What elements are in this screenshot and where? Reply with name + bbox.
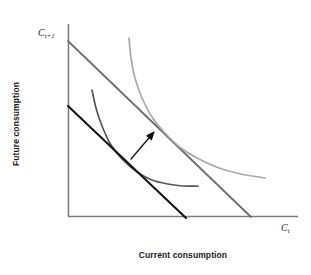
x-axis-title: Current consumption [68, 250, 298, 260]
budget-line-original [68, 106, 186, 218]
budget-line-new [68, 41, 251, 217]
x-axis-end-label-base: C [281, 222, 288, 233]
x-axis-end-label-subscript: t [288, 227, 290, 235]
y-axis-title: Future consumption [11, 64, 21, 184]
x-axis-end-label: Ct [281, 222, 290, 233]
shift-arrow [131, 132, 154, 159]
diagram-canvas [0, 0, 311, 275]
y-intercept-label: Ct+1 [38, 27, 55, 38]
indifference-curve-high [129, 38, 265, 178]
y-intercept-label-base: C [38, 27, 45, 38]
y-intercept-label-subscript: t+1 [45, 32, 55, 40]
consumption-diagram: Ct+1 Ct Future consumption Current consu… [0, 0, 311, 275]
